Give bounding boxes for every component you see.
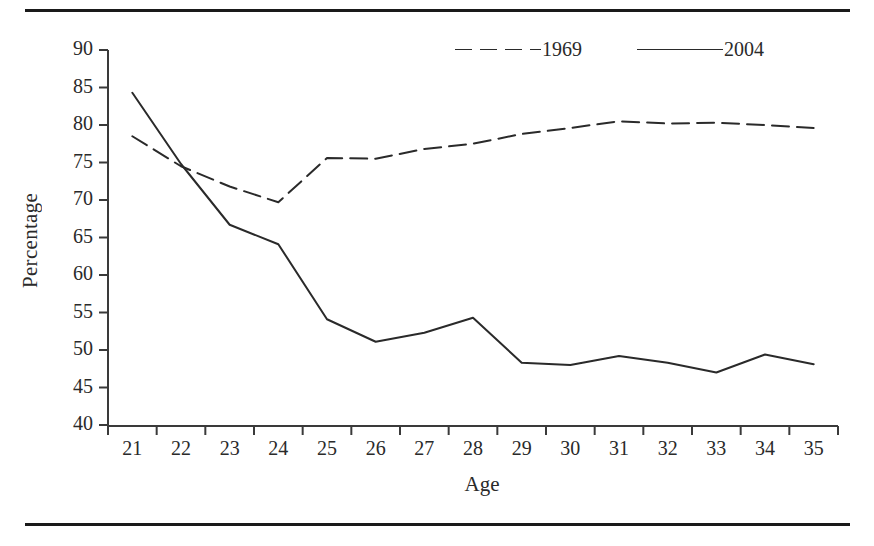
x-tick-label: 21	[108, 437, 156, 460]
x-tick-label: 24	[254, 437, 302, 460]
chart-page: 4045505560657075808590 21222324252627282…	[0, 0, 874, 546]
y-tick-label: 55	[47, 300, 93, 323]
y-axis-title: Percentage	[10, 150, 50, 330]
y-tick-label: 45	[47, 375, 93, 398]
y-tick-label: 40	[47, 412, 93, 435]
x-tick-label: 31	[595, 437, 643, 460]
x-tick-label: 29	[498, 437, 546, 460]
line-chart: 4045505560657075808590 21222324252627282…	[0, 0, 874, 546]
x-tick-label: 22	[157, 437, 205, 460]
legend-item-1969[interactable]: 1969	[455, 36, 582, 62]
series-line-1969	[132, 121, 813, 202]
legend-label-2004: 2004	[724, 38, 764, 61]
x-tick-label: 35	[790, 437, 838, 460]
legend-label-1969: 1969	[542, 38, 582, 61]
x-tick-label: 26	[352, 437, 400, 460]
y-tick-label: 90	[47, 37, 93, 60]
chart-legend: 1969 2004	[455, 36, 795, 62]
legend-swatch-dashed	[455, 48, 541, 50]
x-tick-label: 25	[303, 437, 351, 460]
plot-canvas	[0, 0, 874, 546]
x-axis-title-text: Age	[375, 472, 500, 496]
series-line-2004	[132, 93, 813, 373]
y-tick-label: 60	[47, 262, 93, 285]
x-tick-label: 33	[692, 437, 740, 460]
y-tick-label: 65	[47, 225, 93, 248]
legend-item-2004[interactable]: 2004	[637, 36, 764, 62]
x-tick-label: 23	[206, 437, 254, 460]
y-tick-label: 85	[47, 75, 93, 98]
x-tick-label: 34	[741, 437, 789, 460]
legend-swatch-solid	[637, 48, 723, 50]
y-tick-label: 70	[47, 187, 93, 210]
y-tick-label: 50	[47, 337, 93, 360]
y-tick-label: 80	[47, 112, 93, 135]
x-tick-label: 27	[400, 437, 448, 460]
axis-lines	[108, 50, 838, 426]
data-series-group	[132, 93, 813, 373]
x-axis-ticks	[108, 426, 838, 435]
y-tick-label: 75	[47, 150, 93, 173]
x-tick-label: 30	[546, 437, 594, 460]
x-tick-label: 32	[644, 437, 692, 460]
y-axis-ticks	[99, 50, 108, 425]
x-axis-title: Age	[0, 472, 874, 497]
x-tick-label: 28	[449, 437, 497, 460]
